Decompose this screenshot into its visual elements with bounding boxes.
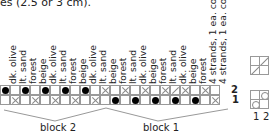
chart-cell-x: [160, 85, 170, 95]
chart-cell-empty: [10, 85, 20, 95]
chart-cell-dot: [60, 85, 70, 95]
chart-cell-x: [100, 85, 110, 95]
block-2-label: block 2: [40, 122, 76, 133]
legend-number-1: 1: [253, 111, 259, 122]
chart-cell-x: [140, 85, 150, 95]
chart-cell-dot: [80, 85, 90, 95]
chart-cell-dot: [110, 95, 120, 105]
chart-cell-x: [180, 85, 190, 95]
chart-cell-x: [50, 95, 60, 105]
chart-cell-empty: [150, 85, 160, 95]
chart-cell-empty: [40, 95, 50, 105]
chart-cell-empty: [120, 95, 130, 105]
chart-cell-dot: [0, 85, 10, 95]
chart-cell-empty: [30, 85, 40, 95]
chart-cell-empty: [130, 85, 140, 95]
legend-number-2: 2: [263, 111, 269, 122]
chart-cell-dot: [170, 95, 180, 105]
chart-cell-empty: [50, 85, 60, 95]
chart-cell-x: [90, 95, 100, 105]
chart-cell-x: [70, 95, 80, 105]
column-label-text: 4 strands, 1 ea. color: [218, 0, 228, 84]
chart-cell-dot: [190, 95, 200, 105]
chart-cell-empty: [0, 95, 10, 105]
chart-cell-slash: [170, 85, 180, 95]
block-braces: [0, 106, 240, 126]
row-number-1: 1: [232, 94, 239, 105]
chart-cell-x: [200, 85, 210, 95]
chart-cell-dot: [40, 85, 50, 95]
chart-cell-empty: [180, 95, 190, 105]
chart-cell-empty: [110, 85, 120, 95]
block-1-label: block 1: [143, 122, 179, 133]
chart-cell-empty: [20, 95, 30, 105]
chart-cell-empty: [90, 85, 100, 95]
chart-cell-x: [30, 95, 40, 105]
chart-cell-x: [10, 95, 20, 105]
chart-cell-empty: [80, 95, 90, 105]
chart-cell-dot: [20, 85, 30, 95]
chart-cell-empty: [210, 85, 220, 95]
chart-cell-empty: [60, 95, 70, 105]
caption-text: es (2.5 or 3 cm).: [0, 0, 91, 9]
chart-cell-empty: [200, 95, 210, 105]
chart-cell-x: [120, 85, 130, 95]
chart-cell-empty: [140, 95, 150, 105]
chart-cell-dot: [130, 95, 140, 105]
chart-cell-empty: [190, 85, 200, 95]
chart-cell-empty: [70, 85, 80, 95]
chart-cell-empty: [160, 95, 170, 105]
chart-cell-dot: [150, 95, 160, 105]
chart-cell-empty: [100, 95, 110, 105]
chart-cell-x: [210, 95, 220, 105]
